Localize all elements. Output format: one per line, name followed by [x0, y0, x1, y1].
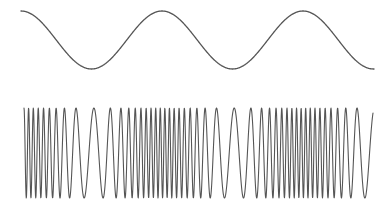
modulating-sine-wave	[21, 11, 374, 69]
fm-diagram	[0, 0, 384, 214]
diagram-svg	[0, 0, 384, 214]
frequency-modulated-carrier-wave	[24, 108, 373, 198]
